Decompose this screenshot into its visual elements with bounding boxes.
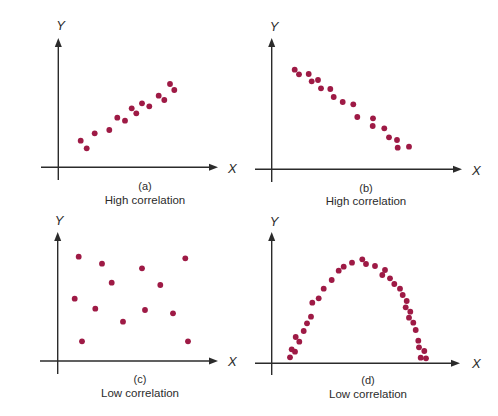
data-point xyxy=(331,94,337,100)
data-point xyxy=(170,310,176,316)
scatter-plots-canvas: Y X (a) High correlation Y X (b) High co… xyxy=(0,0,498,416)
data-point xyxy=(316,295,322,301)
data-point xyxy=(301,328,307,334)
data-point xyxy=(315,77,321,83)
x-axis-arrow-icon xyxy=(209,164,218,171)
data-point xyxy=(129,105,135,111)
y-axis-label: Y xyxy=(55,213,65,228)
panel-caption: Low correlation xyxy=(329,388,407,400)
axes xyxy=(40,232,218,374)
data-point xyxy=(308,314,314,320)
x-axis-arrow-icon xyxy=(453,166,462,173)
data-points xyxy=(72,254,191,344)
data-point xyxy=(416,344,422,350)
data-point xyxy=(381,125,387,131)
data-point xyxy=(327,86,333,92)
data-point xyxy=(157,282,163,288)
data-point xyxy=(293,334,299,340)
data-point xyxy=(404,298,410,304)
axes xyxy=(255,232,460,375)
panel-letter: (a) xyxy=(138,180,151,192)
y-axis-label: Y xyxy=(56,18,66,33)
data-point xyxy=(139,100,145,106)
data-point xyxy=(309,78,315,84)
data-point xyxy=(156,93,162,99)
y-axis-label: Y xyxy=(270,19,280,34)
panel-caption: High correlation xyxy=(326,195,407,207)
data-point xyxy=(340,99,346,105)
data-points xyxy=(287,256,429,361)
data-point xyxy=(171,87,177,93)
y-axis-arrow-icon xyxy=(268,38,275,47)
data-point xyxy=(92,130,98,136)
data-point xyxy=(185,338,191,344)
panel-caption: High correlation xyxy=(105,194,186,206)
data-point xyxy=(406,144,412,150)
data-point xyxy=(161,97,167,103)
data-point xyxy=(292,67,298,73)
data-point xyxy=(400,292,406,298)
data-point xyxy=(79,338,85,344)
data-point xyxy=(84,145,90,151)
data-point xyxy=(106,127,112,133)
data-point xyxy=(78,138,84,144)
data-point xyxy=(350,101,356,107)
panel-d-low-correlation: Y X (d) Low correlation xyxy=(255,214,482,400)
data-point xyxy=(379,272,385,278)
data-point xyxy=(397,286,403,292)
data-point xyxy=(306,71,312,77)
panel-b-high-correlation: Y X (b) High correlation xyxy=(255,19,482,207)
data-points xyxy=(292,67,412,151)
panel-letter: (c) xyxy=(134,373,147,385)
data-point xyxy=(336,268,342,274)
data-point xyxy=(296,71,302,77)
data-point xyxy=(359,256,365,262)
x-axis-label: X xyxy=(471,356,482,371)
data-point xyxy=(394,137,400,143)
data-point xyxy=(296,339,302,345)
data-point xyxy=(309,300,315,306)
data-point xyxy=(372,263,378,269)
data-point xyxy=(114,115,120,121)
data-point xyxy=(76,254,82,260)
data-point xyxy=(329,277,335,283)
data-point xyxy=(406,315,412,321)
panel-a-high-correlation: Y X (a) High correlation xyxy=(41,18,238,206)
data-point xyxy=(363,261,369,267)
y-axis-arrow-icon xyxy=(55,38,62,47)
data-point xyxy=(354,114,360,120)
data-point xyxy=(418,355,424,361)
data-point xyxy=(423,355,429,361)
y-axis-arrow-icon xyxy=(268,232,275,241)
data-point xyxy=(287,354,293,360)
data-point xyxy=(167,81,173,87)
x-axis-label: X xyxy=(471,163,482,178)
data-point xyxy=(182,255,188,261)
x-axis-arrow-icon xyxy=(209,358,218,365)
data-point xyxy=(122,118,128,124)
panel-caption: Low correlation xyxy=(101,387,179,399)
data-point xyxy=(109,280,115,286)
data-point xyxy=(415,338,421,344)
data-point xyxy=(304,320,310,326)
data-point xyxy=(139,265,145,271)
x-axis-label: X xyxy=(227,354,238,369)
data-point xyxy=(395,145,401,151)
data-point xyxy=(72,296,78,302)
data-point xyxy=(382,267,388,273)
scatter-figure: Y X (a) High correlation Y X (b) High co… xyxy=(0,0,498,416)
data-point xyxy=(318,85,324,91)
data-point xyxy=(413,327,419,333)
panel-c-low-correlation: Y X (c) Low correlation xyxy=(40,213,238,399)
data-point xyxy=(370,115,376,121)
data-point xyxy=(92,306,98,312)
data-point xyxy=(421,348,427,354)
data-point xyxy=(407,309,413,315)
data-point xyxy=(99,261,105,267)
data-point xyxy=(133,110,139,116)
data-point xyxy=(386,134,392,140)
data-point xyxy=(349,260,355,266)
data-point xyxy=(370,123,376,129)
y-axis-label: Y xyxy=(270,214,280,229)
data-point xyxy=(321,286,327,292)
